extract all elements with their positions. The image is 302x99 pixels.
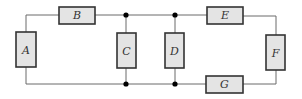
wire-bottom-left	[26, 67, 206, 84]
wires	[26, 15, 276, 84]
component-c: C	[117, 33, 136, 68]
component-d-label: D	[169, 45, 179, 58]
junction-node-icon	[123, 12, 128, 17]
component-f: F	[266, 35, 285, 70]
component-d: D	[165, 33, 184, 68]
wire-bottom-right	[243, 70, 276, 84]
component-e: E	[207, 7, 243, 24]
component-g: G	[206, 76, 243, 93]
junction-node-icon	[172, 12, 177, 17]
junction-node-icon	[172, 81, 177, 86]
wire-top-right	[243, 16, 276, 35]
component-a-label: A	[21, 44, 30, 57]
circuit-diagram: A B C D E F G	[0, 0, 302, 99]
junction-node-icon	[123, 81, 128, 86]
component-g-label: G	[220, 78, 229, 91]
component-b-label: B	[72, 9, 81, 22]
component-a: A	[16, 32, 36, 67]
component-c-label: C	[122, 45, 131, 58]
component-f-label: F	[271, 47, 280, 60]
component-e-label: E	[220, 9, 229, 22]
component-b: B	[59, 7, 95, 24]
wire-top-left	[26, 15, 59, 32]
